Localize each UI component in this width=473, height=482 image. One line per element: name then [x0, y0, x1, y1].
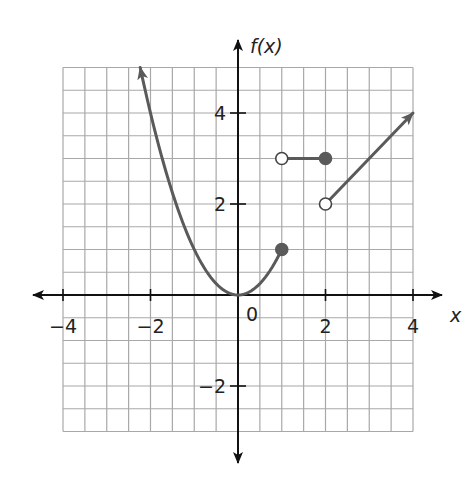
open-point-marker [276, 153, 288, 165]
y-tick-label: −2 [198, 375, 226, 397]
piecewise-function-graph: −4−2024−224xf(x) [0, 0, 473, 482]
x-axis-label: x [449, 304, 462, 326]
x-tick-label: −4 [49, 315, 77, 337]
open-point-marker [320, 198, 332, 210]
x-tick-label: 4 [407, 315, 419, 337]
axis-labels: −4−2024−224xf(x) [49, 35, 462, 397]
y-axis-label: f(x) [250, 35, 283, 57]
y-tick-label: 4 [214, 102, 226, 124]
axes [33, 40, 442, 463]
x-tick-label: −2 [136, 315, 164, 337]
closed-point-marker [276, 244, 288, 256]
closed-point-marker [320, 153, 332, 165]
x-tick-label: 2 [319, 315, 331, 337]
y-tick-label: 2 [214, 193, 226, 215]
x-tick-label: 0 [246, 303, 258, 325]
